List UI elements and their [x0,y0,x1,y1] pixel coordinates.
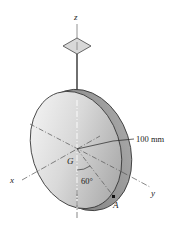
x-axis-label: x [9,175,14,185]
angle-label: 60° [81,176,93,186]
z-axis-label: z [73,12,78,22]
y-axis-label: y [150,188,155,198]
disk-diagram: z x y 100 mm 60° G A [0,0,186,225]
point-A-label: A [112,200,119,210]
point-A-marker [112,195,115,198]
radius-dimension-label: 100 mm [136,134,164,144]
center-label-G: G [67,156,74,166]
